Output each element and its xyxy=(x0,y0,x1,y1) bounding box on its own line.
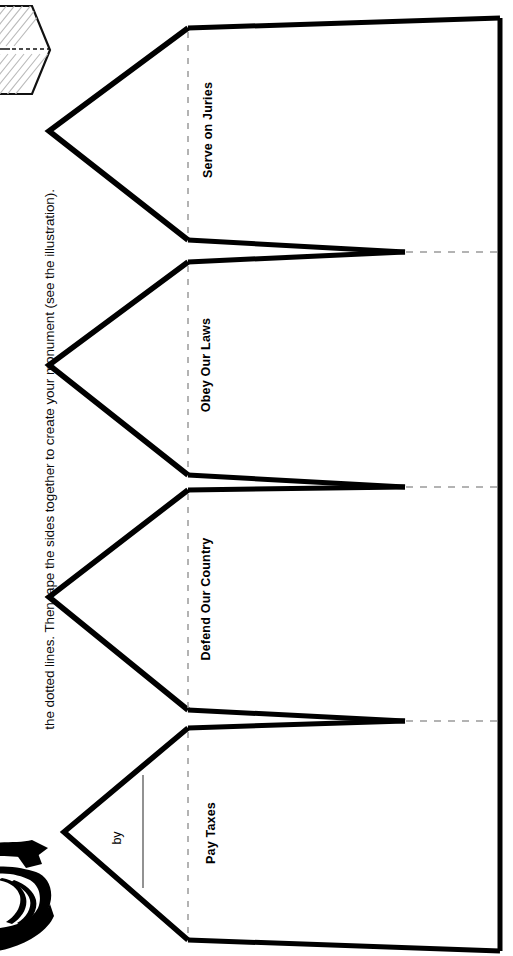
horizontal-fold-lines xyxy=(406,252,499,721)
panel-outline-pay-taxes xyxy=(64,721,500,951)
panel-outline-serve-on-juries xyxy=(49,18,500,252)
panel-outline-obey-our-laws xyxy=(49,252,405,487)
monument-template-outline xyxy=(0,0,513,956)
panel-label-serve-on-juries: Serve on Juries xyxy=(201,55,215,205)
panel-label-defend-our-country: Defend Our Country xyxy=(199,519,213,679)
panel-outline-defend-our-country xyxy=(49,487,405,721)
signature-prefix-label: by xyxy=(110,813,124,863)
worksheet-page: the dotted lines. Then tape the sides to… xyxy=(0,0,513,956)
panel-label-pay-taxes: Pay Taxes xyxy=(204,758,218,908)
panel-label-obey-our-laws: Obey Our Laws xyxy=(199,290,213,440)
